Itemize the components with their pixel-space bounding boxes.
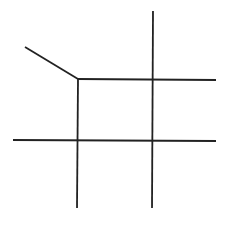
diagonal-segment — [25, 47, 78, 79]
left-vertical-line — [77, 79, 78, 208]
line-diagram — [0, 0, 240, 240]
top-horizontal-line — [78, 79, 216, 80]
bottom-horizontal-line — [13, 140, 216, 141]
diagram-canvas — [0, 0, 240, 240]
right-vertical-line — [152, 11, 153, 208]
